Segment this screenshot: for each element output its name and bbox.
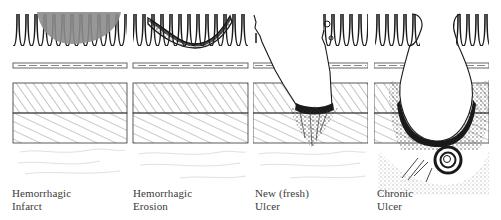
panel-hemorrhagic-infarct — [13, 12, 127, 174]
panel-new-fresh-ulcer — [253, 14, 368, 178]
label-new-fresh-ulcer: New (fresh) Ulcer — [255, 187, 309, 213]
mucosa-villi — [456, 12, 489, 46]
submucosa-layer — [13, 83, 127, 113]
submucosa-layer — [133, 83, 248, 113]
label-line-2: Erosion — [133, 200, 192, 213]
vessel-icon — [435, 147, 461, 173]
label-line-1: New (fresh) — [255, 187, 309, 200]
label-hemorrhagic-erosion: Hemorrhagic Erosion — [133, 187, 192, 213]
panel-hemorrhagic-erosion — [133, 12, 248, 178]
label-line-2: Infarct — [12, 200, 71, 213]
mucosa-villi — [375, 12, 420, 46]
panel-chronic-ulcer — [374, 12, 489, 195]
label-chronic-ulcer: Chronic Ulcer — [377, 187, 413, 213]
label-line-1: Hemorrhagic — [133, 187, 192, 200]
serosa — [18, 149, 125, 174]
label-line-2: Ulcer — [255, 200, 309, 213]
muscularis-propria — [133, 113, 248, 143]
label-line-2: Ulcer — [377, 200, 413, 213]
serosa — [138, 151, 246, 178]
label-line-1: Hemorrhagic — [12, 187, 71, 200]
label-hemorrhagic-infarct: Hemorrhagic Infarct — [12, 187, 71, 213]
muscularis-propria — [13, 113, 127, 143]
mucosa-villi — [323, 14, 368, 46]
crater-wall — [400, 45, 473, 141]
label-line-1: Chronic — [377, 187, 413, 200]
serosa — [258, 151, 366, 178]
lesion-diagram — [0, 0, 501, 220]
